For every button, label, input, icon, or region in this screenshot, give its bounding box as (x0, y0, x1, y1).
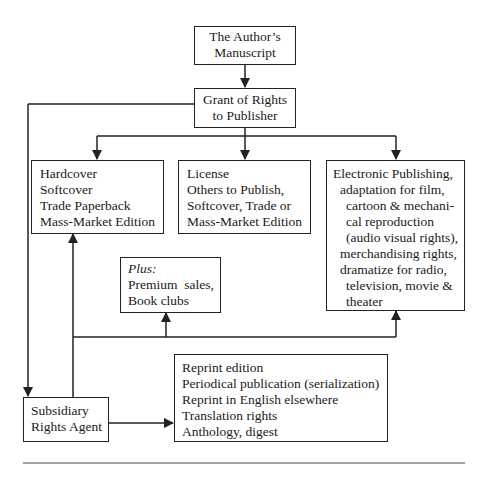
node-text: Premium sales, (128, 277, 220, 293)
node-text: cal reproduction (333, 214, 464, 230)
node-text: Hardcover (40, 166, 163, 182)
node-text: Book clubs (128, 293, 220, 309)
node-text: merchandising rights, (333, 246, 464, 262)
node-electronic-publishing: Electronic Publishing, adaptation for fi… (326, 160, 465, 311)
node-text: Periodical publication (serialization) (182, 376, 387, 392)
node-grant-of-rights: Grant of Rights to Publisher (194, 88, 296, 128)
node-text: theater (333, 294, 464, 310)
node-text: Electronic Publishing, (333, 166, 464, 182)
node-text: (audio visual rights), (333, 230, 464, 246)
node-text: Trade Paperback (40, 198, 163, 214)
node-text: Mass-Market Edition (40, 214, 163, 230)
node-text: Grant of Rights (195, 92, 295, 108)
node-text: Subsidiary (31, 403, 108, 419)
node-text: cartoon & mechani- (333, 198, 464, 214)
node-text: Softcover (40, 182, 163, 198)
node-text: to Publisher (195, 108, 295, 124)
node-text: Manuscript (195, 45, 295, 61)
node-reprint-rights: Reprint edition Periodical publication (… (174, 354, 388, 442)
node-text: Softcover, Trade or (187, 198, 310, 214)
node-license: License Others to Publish, Softcover, Tr… (178, 160, 311, 234)
node-hardcover: Hardcover Softcover Trade Paperback Mass… (31, 160, 164, 234)
node-text: adaptation for film, (333, 182, 464, 198)
node-plus-premium-sales: Plus: Premium sales, Book clubs (120, 257, 221, 313)
node-label: Plus: (128, 261, 220, 277)
node-text: License (187, 166, 310, 182)
node-text: The Author’s (195, 29, 295, 45)
node-text: dramatize for radio, (333, 262, 464, 278)
node-text: Anthology, digest (182, 424, 387, 440)
node-text: Reprint edition (182, 360, 387, 376)
node-subsidiary-rights-agent: Subsidiary Rights Agent (23, 397, 109, 442)
node-text: Rights Agent (31, 419, 108, 435)
node-text: television, movie & (333, 278, 464, 294)
node-manuscript: The Author’s Manuscript (194, 26, 296, 65)
node-text: Translation rights (182, 408, 387, 424)
node-text: Reprint in English elsewhere (182, 392, 387, 408)
node-text: Mass-Market Edition (187, 214, 310, 230)
node-text: Others to Publish, (187, 182, 310, 198)
